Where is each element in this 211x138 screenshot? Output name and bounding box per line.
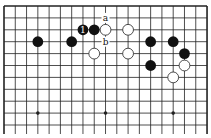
black-stone (32, 36, 43, 47)
star-point (104, 111, 108, 115)
star-point (36, 111, 40, 115)
point-label-a: a (103, 13, 109, 23)
star-point (171, 111, 175, 115)
white-stone (179, 60, 190, 71)
black-stone (179, 48, 190, 59)
white-stone (100, 24, 111, 35)
white-stone (89, 48, 100, 59)
black-stone (168, 36, 179, 47)
move-number-label: 1 (80, 25, 86, 35)
white-stone (168, 72, 179, 83)
black-stone (66, 36, 77, 47)
black-stone (89, 24, 100, 35)
white-stone (123, 48, 134, 59)
black-stone (145, 36, 156, 47)
point-label-b: b (103, 37, 109, 47)
white-stone (123, 24, 134, 35)
black-stone (145, 60, 156, 71)
go-board: 1ab (0, 0, 211, 138)
